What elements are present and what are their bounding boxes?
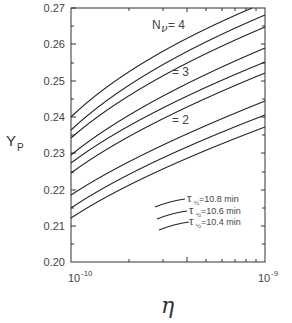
legend-line-10.4 (159, 222, 189, 230)
curve-n2-10.4 (71, 127, 265, 218)
legend-entry-2: =10.6 min (201, 206, 241, 216)
ytick-0.22: 0.22 (44, 184, 65, 196)
xtick-max: 10 (258, 272, 270, 284)
legend-entry-3: =10.4 min (201, 217, 241, 227)
ytick-0.27: 0.27 (44, 2, 65, 14)
curve-n4-10.4 (71, 27, 265, 138)
ytick-0.25: 0.25 (44, 75, 65, 87)
ann-n4-suffix: = 4 (168, 18, 185, 32)
ytick-0.26: 0.26 (44, 38, 65, 50)
legend-tau-3: τ (189, 215, 194, 227)
y-axis-label: Y P (6, 132, 24, 153)
ytick-0.21: 0.21 (44, 220, 65, 232)
xtick-max-exp: -9 (271, 269, 279, 278)
y-axis-label-main: Y (6, 132, 16, 149)
legend-tau-1: τ (187, 192, 192, 204)
ann-n3: = 3 (172, 65, 189, 79)
yp-vs-eta-chart: 0.27 0.26 0.25 0.24 0.23 0.22 0.21 0.20 … (0, 0, 292, 323)
xtick-min: 10 (68, 272, 80, 284)
curves (71, 8, 265, 218)
xtick-min-exp: -10 (81, 269, 93, 278)
legend-line-10.6 (157, 211, 187, 219)
ann-n2: = 2 (172, 113, 189, 127)
x-tick-labels: 10 -10 10 -9 (68, 269, 279, 284)
y-axis-label-sub: P (17, 142, 24, 153)
legend-line-10.8 (155, 199, 185, 207)
legend: τ ½ =10.8 min τ ½ =10.6 min τ ½ =10.4 mi… (155, 192, 241, 230)
curve-n3-10.4 (71, 73, 265, 173)
ann-n4-sub: ν (161, 22, 168, 35)
y-tick-labels: 0.27 0.26 0.25 0.24 0.23 0.22 0.21 0.20 (44, 2, 65, 268)
curve-n3-10.8 (71, 48, 265, 155)
ytick-0.24: 0.24 (44, 111, 65, 123)
ann-n4-prefix: N (152, 18, 161, 32)
legend-entry-1: =10.8 min (199, 194, 239, 204)
ytick-0.23: 0.23 (44, 147, 65, 159)
ytick-0.20: 0.20 (44, 256, 65, 268)
x-axis-label: η (161, 293, 174, 318)
